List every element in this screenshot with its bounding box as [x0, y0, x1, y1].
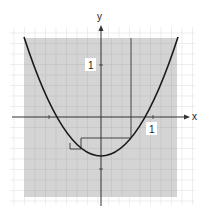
y-axis-label: y: [97, 11, 102, 22]
y-unit-label: 1: [88, 60, 94, 71]
function-graph: 1 1 y x: [0, 0, 205, 213]
x-axis-arrow-icon: [184, 115, 190, 120]
x-unit-label: 1: [149, 124, 155, 135]
y-axis-arrow-icon: [99, 25, 104, 31]
x-axis-label: x: [192, 111, 197, 122]
